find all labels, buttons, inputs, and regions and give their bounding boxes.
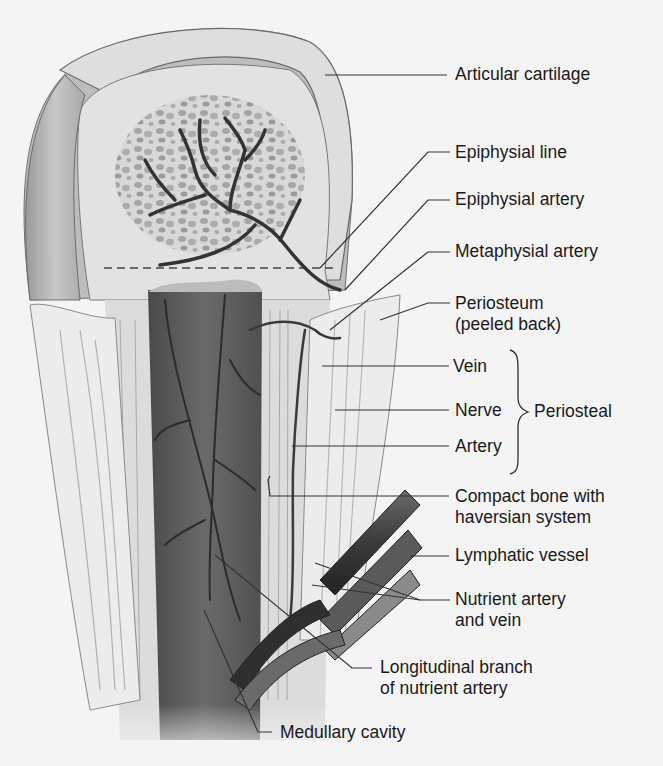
label-metaphysial-artery: Metaphysial artery	[455, 241, 598, 262]
label-text: of nutrient artery	[380, 678, 533, 699]
label-text: Epiphysial line	[455, 142, 567, 162]
label-text: Compact bone with	[455, 486, 605, 507]
label-nutrient-artery-vein: Nutrient artery and vein	[455, 589, 566, 631]
label-text: Longitudinal branch	[380, 657, 533, 678]
label-longitudinal-branch: Longitudinal branch of nutrient artery	[380, 657, 533, 699]
label-text: Periosteal	[534, 401, 612, 421]
label-medullary-cavity: Medullary cavity	[280, 722, 405, 743]
label-text: haversian system	[455, 507, 605, 528]
label-periosteum: Periosteum (peeled back)	[455, 293, 561, 335]
label-vein: Vein	[453, 356, 487, 377]
label-periosteal-group: Periosteal	[534, 401, 612, 422]
label-nerve: Nerve	[455, 400, 502, 421]
bone-blood-supply-diagram: Articular cartilage Epiphysial line Epip…	[0, 0, 663, 766]
label-text: Articular cartilage	[455, 64, 590, 84]
bone-illustration	[0, 0, 663, 766]
label-text: Epiphysial artery	[455, 189, 584, 209]
label-text: and vein	[455, 610, 566, 631]
label-text: Vein	[453, 356, 487, 376]
label-text: Nerve	[455, 400, 502, 420]
label-text: Periosteum	[455, 293, 561, 314]
label-text: Metaphysial artery	[455, 241, 598, 261]
label-text: Nutrient artery	[455, 589, 566, 610]
label-text: Medullary cavity	[280, 722, 405, 742]
label-articular-cartilage: Articular cartilage	[455, 64, 590, 85]
label-epiphysial-artery: Epiphysial artery	[455, 189, 584, 210]
label-text: Lymphatic vessel	[455, 545, 589, 565]
label-artery: Artery	[455, 436, 502, 457]
label-compact-bone: Compact bone with haversian system	[455, 486, 605, 528]
label-epiphysial-line: Epiphysial line	[455, 142, 567, 163]
label-lymphatic-vessel: Lymphatic vessel	[455, 545, 589, 566]
label-text: Artery	[455, 436, 502, 456]
label-text: (peeled back)	[455, 314, 561, 335]
